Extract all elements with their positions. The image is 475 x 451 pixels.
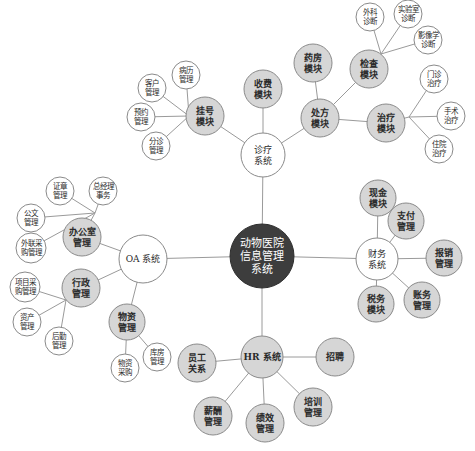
node-outpt: 门诊治疗 (420, 65, 448, 93)
node-label: 后勤 (52, 331, 67, 341)
node-triage: 分诊管理 (142, 132, 170, 160)
node-label: 模块 (360, 69, 379, 80)
node-record: 病历管理 (172, 61, 200, 89)
node-acct: 账务管理 (404, 282, 440, 318)
node-train: 培训管理 (294, 388, 332, 426)
node-label: 客户 (145, 78, 159, 88)
node-label: 报销 (435, 247, 453, 258)
node-label: 证章 (53, 181, 68, 191)
node-exam: 检查模块 (350, 50, 388, 88)
node-label: 财务 (368, 248, 386, 259)
node-label: 管理 (73, 237, 91, 248)
node-admin: 行政管理 (62, 269, 100, 307)
node-label: 公文 (24, 208, 39, 218)
node-label: 税务 (367, 293, 386, 304)
node-label: 分诊 (149, 136, 164, 146)
node-matpur: 物资采购 (111, 354, 139, 382)
node-label: 治疗 (444, 115, 459, 125)
node-presc: 处方模块 (301, 99, 339, 137)
node-label: 员工 (188, 353, 206, 363)
node-label: 账务 (413, 289, 432, 300)
node-label: 模块 (254, 89, 273, 100)
node-label: 支付 (396, 210, 415, 221)
node-label: 处方 (310, 107, 329, 118)
node-perf: 绩效管理 (246, 404, 284, 442)
node-label: 系统 (254, 155, 272, 166)
node-label: 绩效 (256, 412, 275, 423)
node-root: 动物医院信息管理系统 (230, 224, 294, 288)
node-tax: 税务模块 (358, 286, 394, 322)
node-label: 关系 (188, 363, 206, 374)
node-label: 管理 (304, 407, 322, 418)
node-label: 管理 (20, 321, 35, 331)
node-label: 治疗 (427, 78, 442, 88)
node-label: 管理 (256, 423, 274, 434)
node-label: 物资 (118, 358, 133, 368)
node-oa: OA 系统 (119, 235, 167, 283)
node-label: 预约 (134, 107, 148, 117)
node-label: 治疗 (432, 148, 447, 158)
node-label: 检查 (360, 58, 379, 69)
node-surgdiag: 外科诊断 (356, 3, 384, 31)
node-label: 总经理 (93, 181, 115, 191)
node-label: 信息管理 (240, 249, 284, 263)
node-label: 药房 (304, 52, 322, 63)
node-label: 门诊 (427, 69, 442, 79)
node-reg: 挂号模块 (186, 97, 224, 135)
node-label: 购管理 (15, 286, 37, 296)
node-label: 采购 (118, 367, 132, 377)
node-label: 病历 (179, 65, 194, 75)
node-label: 模块 (304, 63, 323, 74)
node-projpur: 项目采购管理 (10, 272, 40, 302)
node-label: 购管理 (21, 247, 43, 257)
node-label: 管理 (134, 116, 149, 126)
node-logis: 后勤管理 (45, 327, 73, 355)
node-label: 事务 (96, 190, 111, 200)
node-reimb: 报销管理 (426, 240, 462, 276)
node-cash: 现金模块 (360, 180, 396, 216)
node-label: 挂号 (196, 105, 214, 116)
node-label: 管理 (149, 145, 164, 155)
node-recruit: 招聘 (316, 338, 354, 376)
node-label: OA 系统 (126, 253, 161, 264)
node-label: 管理 (435, 258, 453, 269)
node-label: 管理 (413, 300, 431, 311)
node-label: 治疗 (377, 112, 395, 123)
node-label: 住院 (432, 139, 447, 149)
node-label: 诊断 (421, 39, 436, 49)
node-warehouse: 库房管理 (143, 343, 171, 371)
node-office: 办公室管理 (63, 218, 101, 256)
node-label: 外联采 (21, 238, 43, 248)
node-label: 库房 (150, 347, 164, 357)
node-label: 模块 (196, 116, 215, 127)
node-salary: 薪酬管理 (194, 397, 232, 435)
node-label: 管理 (397, 221, 415, 232)
node-diag: 诊疗系统 (241, 133, 285, 177)
node-label: 模块 (377, 123, 396, 134)
node-surgery: 手术治疗 (437, 102, 465, 130)
node-label: 管理 (118, 322, 136, 333)
node-material: 物资管理 (109, 304, 145, 340)
node-labdiag: 实验室诊断 (394, 0, 422, 28)
node-label: 诊断 (363, 16, 378, 26)
node-gm: 总经理事务 (89, 177, 117, 205)
node-pay: 支付管理 (388, 203, 424, 239)
node-pharm: 药房模块 (294, 44, 332, 82)
node-extpur: 外联采购管理 (16, 233, 46, 263)
node-fin: 财务系统 (356, 238, 398, 280)
node-label: 模块 (369, 198, 388, 209)
node-label: 薪酬 (204, 405, 222, 416)
node-treat: 治疗模块 (367, 104, 405, 142)
node-emprel: 员工关系 (178, 344, 216, 382)
node-label: 收费 (254, 78, 272, 89)
node-label: 现金 (369, 187, 388, 198)
node-label: 系统 (368, 259, 386, 270)
node-label: 手术 (444, 106, 459, 116)
node-label: 管理 (72, 288, 90, 299)
node-client: 客户管理 (138, 74, 166, 102)
node-appt: 预约管理 (127, 103, 155, 131)
node-label: 管理 (150, 356, 165, 366)
node-label: 管理 (24, 217, 39, 227)
node-label: 培训 (304, 396, 322, 407)
node-label: 诊疗 (254, 144, 272, 155)
